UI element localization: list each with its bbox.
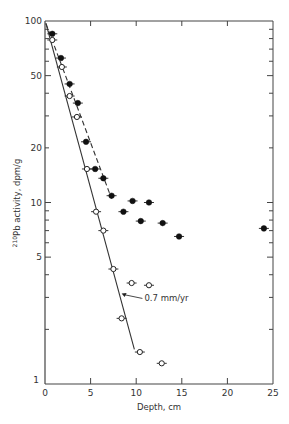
- x-tick-label: 15: [176, 388, 187, 398]
- filled-data-point: [144, 200, 154, 206]
- x-tick-label: 25: [267, 388, 278, 398]
- axes: [45, 21, 273, 384]
- data-points: [47, 31, 269, 366]
- open-marker: [74, 114, 79, 119]
- filled-data-point: [98, 175, 108, 181]
- filled-data-point: [65, 81, 75, 87]
- open-marker: [93, 209, 98, 214]
- filled-data-point: [136, 218, 146, 224]
- solid-fit-line: [46, 23, 134, 349]
- filled-marker: [138, 218, 144, 224]
- filled-marker: [101, 175, 107, 181]
- filled-marker: [49, 31, 55, 37]
- y-tick-label: 20: [31, 143, 43, 153]
- filled-data-point: [107, 193, 117, 199]
- filled-marker: [121, 209, 127, 215]
- y-axis-title-superscript: 210: [11, 236, 18, 248]
- open-marker: [111, 266, 116, 271]
- fit-lines: [46, 23, 134, 349]
- x-axis-title: Depth, cm: [137, 402, 181, 412]
- x-tick-label: 20: [222, 388, 234, 398]
- open-data-point: [127, 280, 137, 285]
- filled-marker: [146, 200, 152, 206]
- x-tick-label: 10: [130, 388, 142, 398]
- filled-marker: [261, 226, 267, 232]
- lead-210-depth-chart: 0510152025 15102050100 0.7 mm/yr Depth, …: [0, 0, 289, 424]
- filled-marker: [176, 234, 182, 240]
- y-axis-title: 210Pb activity, dpm/g: [11, 159, 22, 248]
- open-marker: [146, 283, 151, 288]
- filled-marker: [92, 166, 98, 172]
- y-tick-label: 5: [36, 252, 42, 262]
- y-tick-label: 10: [31, 198, 43, 208]
- x-tick-label: 5: [88, 388, 94, 398]
- open-marker: [159, 361, 164, 366]
- open-marker: [67, 93, 72, 98]
- filled-marker: [160, 220, 166, 226]
- open-marker: [119, 316, 124, 321]
- filled-data-point: [56, 55, 66, 61]
- filled-marker: [67, 81, 73, 87]
- annotation-leader-line: [124, 295, 143, 299]
- open-marker: [101, 228, 106, 233]
- y-tick-label: 100: [25, 16, 42, 26]
- open-marker: [84, 166, 89, 171]
- open-data-point: [157, 361, 167, 366]
- open-data-point: [91, 209, 101, 214]
- open-marker: [137, 349, 142, 354]
- x-tick-label: 0: [42, 388, 48, 398]
- y-axis-title-text: Pb activity, dpm/g: [12, 159, 22, 236]
- filled-marker: [83, 139, 89, 145]
- filled-data-point: [158, 220, 168, 226]
- open-data-point: [135, 349, 145, 354]
- filled-data-point: [128, 198, 138, 204]
- open-marker: [50, 37, 55, 42]
- dashed-fit-line: [46, 23, 112, 198]
- filled-data-point: [73, 100, 83, 106]
- filled-marker: [130, 198, 136, 204]
- filled-marker: [58, 55, 64, 61]
- filled-marker: [109, 193, 115, 199]
- open-marker: [129, 280, 134, 285]
- open-marker: [59, 64, 64, 69]
- filled-data-point: [118, 209, 128, 215]
- x-axis-ticks: 0510152025: [42, 21, 279, 398]
- y-tick-label: 50: [31, 71, 43, 81]
- filled-data-point: [174, 234, 184, 240]
- filled-marker: [75, 100, 81, 106]
- open-data-point: [144, 283, 154, 288]
- filled-data-point: [259, 226, 269, 232]
- open-data-point: [98, 228, 108, 233]
- y-tick-label: 1: [33, 375, 39, 385]
- open-data-point: [108, 266, 118, 271]
- open-data-point: [82, 166, 92, 171]
- annotations: 0.7 mm/yr: [122, 293, 189, 303]
- annotation-label: 0.7 mm/yr: [144, 293, 189, 303]
